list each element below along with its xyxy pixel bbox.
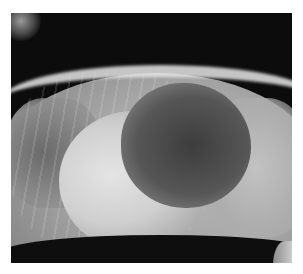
spine-arc xyxy=(11,65,292,137)
film-bottom-background xyxy=(11,235,292,263)
corner-glow xyxy=(11,13,41,41)
radiograph-image xyxy=(11,13,292,263)
